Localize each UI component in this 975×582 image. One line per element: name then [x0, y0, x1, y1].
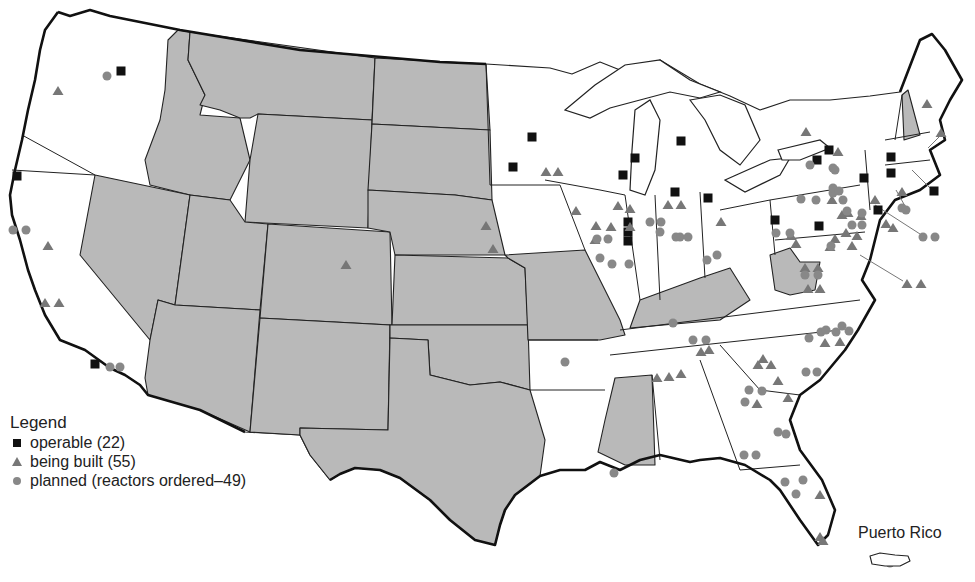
- planned-marker: [835, 187, 844, 196]
- puerto-rico-inset: [870, 553, 910, 566]
- operable-marker: [509, 163, 518, 172]
- planned-marker: [797, 195, 806, 204]
- operable-marker: [771, 216, 780, 225]
- planned-marker: [116, 363, 125, 372]
- planned-marker: [838, 322, 847, 331]
- planned-marker: [919, 233, 928, 242]
- planned-marker: [610, 469, 619, 478]
- state-new-mexico: [250, 318, 390, 435]
- planned-marker: [689, 336, 698, 345]
- operable-marker: [887, 153, 896, 162]
- planned-marker: [786, 229, 795, 238]
- legend-label-operable: operable (22): [30, 433, 125, 452]
- planned-marker: [822, 326, 831, 335]
- planned-marker: [561, 358, 570, 367]
- operable-marker: [860, 174, 869, 183]
- planned-marker: [805, 334, 814, 343]
- planned-marker: [22, 226, 31, 235]
- operable-marker: [13, 172, 22, 181]
- planned-marker: [802, 368, 811, 377]
- planned-marker: [745, 386, 754, 395]
- operable-marker: [825, 146, 834, 155]
- planned-marker: [593, 235, 602, 244]
- state-colorado: [260, 224, 392, 325]
- planned-marker: [827, 242, 836, 251]
- operable-marker: [677, 137, 686, 146]
- being-built-marker: [916, 279, 927, 288]
- us-map: [0, 0, 975, 582]
- planned-marker: [814, 271, 823, 280]
- planned-marker: [625, 260, 634, 269]
- operable-marker: [117, 67, 126, 76]
- legend-label-being-built: being built (55): [30, 452, 136, 471]
- planned-marker: [839, 196, 848, 205]
- operable-marker: [930, 187, 939, 196]
- planned-marker: [848, 221, 857, 230]
- being-built-marker: [881, 219, 892, 228]
- planned-marker: [672, 233, 681, 242]
- operable-marker: [528, 133, 537, 142]
- planned-marker: [843, 207, 852, 216]
- planned-marker: [902, 206, 911, 215]
- planned-marker: [604, 235, 613, 244]
- legend-item-being-built: being built (55): [10, 452, 246, 471]
- planned-marker: [752, 451, 761, 460]
- puerto-rico-label: Puerto Rico: [858, 524, 942, 542]
- planned-marker: [656, 228, 665, 237]
- planned-marker: [774, 428, 783, 437]
- planned-marker: [596, 254, 605, 263]
- state-kansas: [392, 255, 528, 325]
- planned-marker: [103, 72, 112, 81]
- legend: Legend operable (22) being built (55) pl…: [10, 413, 246, 490]
- planned-marker: [812, 196, 821, 205]
- planned-marker: [684, 233, 693, 242]
- puerto-rico-outline: [870, 553, 910, 566]
- planned-marker: [772, 229, 781, 238]
- planned-marker: [713, 251, 722, 260]
- operable-marker: [624, 237, 633, 246]
- planned-marker: [740, 451, 749, 460]
- planned-marker: [608, 260, 617, 269]
- operable-marker: [887, 169, 896, 178]
- planned-marker: [858, 209, 867, 218]
- planned-marker: [702, 336, 711, 345]
- planned-marker: [931, 233, 940, 242]
- planned-marker: [799, 476, 808, 485]
- planned-marker: [657, 218, 666, 227]
- state-north-dakota: [372, 58, 490, 130]
- planned-marker: [9, 226, 18, 235]
- planned-marker: [669, 319, 678, 328]
- square-icon: [13, 439, 21, 447]
- state-wyoming: [245, 114, 372, 228]
- planned-marker: [858, 221, 867, 230]
- planned-marker: [806, 161, 815, 170]
- planned-marker: [782, 430, 791, 439]
- triangle-icon: [12, 457, 22, 466]
- planned-marker: [741, 398, 750, 407]
- planned-marker: [106, 363, 115, 372]
- legend-title: Legend: [10, 413, 246, 432]
- planned-marker: [831, 166, 840, 175]
- circle-icon: [13, 477, 21, 485]
- operable-marker: [671, 188, 680, 197]
- operable-marker: [91, 360, 100, 369]
- planned-marker: [813, 368, 822, 377]
- operable-marker: [815, 222, 824, 231]
- being-built-marker: [902, 279, 913, 288]
- planned-marker: [703, 256, 712, 265]
- operable-marker: [704, 194, 713, 203]
- operable-marker: [874, 206, 883, 215]
- operable-marker: [619, 171, 628, 180]
- planned-marker: [801, 271, 810, 280]
- state-south-dakota: [368, 124, 492, 200]
- planned-marker: [758, 387, 767, 396]
- state-montana: [188, 32, 375, 120]
- legend-item-operable: operable (22): [10, 433, 246, 452]
- legend-item-planned: planned (reactors ordered–49): [10, 471, 246, 490]
- planned-marker: [646, 218, 655, 227]
- operable-marker: [631, 154, 640, 163]
- planned-marker: [781, 478, 790, 487]
- legend-label-planned: planned (reactors ordered–49): [30, 471, 246, 490]
- planned-marker: [792, 490, 801, 499]
